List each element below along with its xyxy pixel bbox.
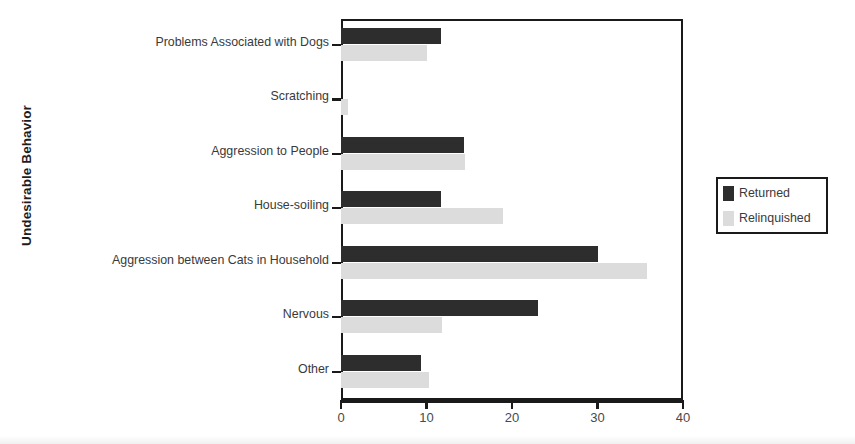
bar-relinquished-problems-associated-with-dogs (341, 45, 427, 61)
y-axis-label-wrap-house-soiling: House-soiling (0, 198, 329, 218)
bar-relinquished-nervous (341, 317, 442, 333)
bar-group-other (341, 346, 683, 400)
x-axis-tick-label-10: 10 (407, 410, 447, 425)
bar-chart-figure: Undesirable Behavior Problems Associated… (0, 0, 855, 444)
bar-returned-house-soiling (341, 191, 441, 207)
x-axis-tick-10 (425, 400, 427, 409)
y-axis-tick-scratching (332, 98, 341, 100)
y-axis-label-wrap-aggression-between-cats-in-household: Aggression between Cats in Household (0, 253, 329, 273)
x-axis-tick-20 (511, 400, 513, 409)
bar-group-problems-associated-with-dogs (341, 19, 683, 73)
bar-group-nervous (341, 291, 683, 345)
bar-relinquished-aggression-to-people (341, 154, 465, 170)
y-axis-label-aggression-to-people: Aggression to People (9, 144, 329, 158)
bar-returned-aggression-to-people (341, 137, 464, 153)
x-axis-tick-label-30: 30 (578, 410, 618, 425)
y-axis-label-wrap-other: Other (0, 362, 329, 382)
bar-relinquished-scratching (341, 99, 348, 115)
bar-relinquished-house-soiling (341, 208, 503, 224)
bar-group-aggression-between-cats-in-household (341, 237, 683, 291)
y-axis-label-nervous: Nervous (9, 307, 329, 321)
bar-returned-problems-associated-with-dogs (341, 28, 441, 44)
y-axis-label-wrap-aggression-to-people: Aggression to People (0, 144, 329, 164)
y-axis-tick-house-soiling (332, 207, 341, 209)
x-axis-tick-0 (340, 400, 342, 409)
legend-entry-returned: Returned (723, 184, 790, 202)
y-axis-label-wrap-nervous: Nervous (0, 307, 329, 327)
x-axis-tick-label-20: 20 (492, 410, 532, 425)
y-axis-tick-problems-associated-with-dogs (332, 44, 341, 46)
y-axis-label-house-soiling: House-soiling (9, 198, 329, 212)
bar-returned-other (341, 355, 421, 371)
y-axis-tick-aggression-between-cats-in-household (332, 262, 341, 264)
legend-entry-relinquished: Relinquished (723, 209, 811, 227)
scan-edge-artifact (0, 436, 855, 444)
legend-label-returned: Returned (739, 186, 790, 200)
bar-group-aggression-to-people (341, 128, 683, 182)
x-axis-tick-40 (682, 400, 684, 409)
bar-relinquished-aggression-between-cats-in-household (341, 263, 647, 279)
bar-group-house-soiling (341, 182, 683, 236)
chart-legend: ReturnedRelinquished (716, 177, 828, 234)
y-axis-tick-nervous (332, 316, 341, 318)
y-axis-label-scratching: Scratching (9, 89, 329, 103)
legend-label-relinquished: Relinquished (739, 211, 811, 225)
y-axis-label-aggression-between-cats-in-household: Aggression between Cats in Household (9, 253, 329, 267)
bar-returned-nervous (341, 300, 538, 316)
x-axis-tick-label-40: 40 (663, 410, 703, 425)
y-axis-label-wrap-scratching: Scratching (0, 89, 329, 109)
y-axis-label-wrap-problems-associated-with-dogs: Problems Associated with Dogs (0, 35, 329, 55)
bar-group-scratching (341, 73, 683, 127)
y-axis-tick-aggression-to-people (332, 153, 341, 155)
x-axis-tick-30 (596, 400, 598, 409)
bar-relinquished-other (341, 372, 429, 388)
y-axis-label-problems-associated-with-dogs: Problems Associated with Dogs (9, 35, 329, 49)
y-axis-tick-other (332, 371, 341, 373)
bar-returned-aggression-between-cats-in-household (341, 246, 598, 262)
y-axis-label-other: Other (9, 362, 329, 376)
x-axis-tick-label-0: 0 (321, 410, 361, 425)
legend-swatch-relinquished (723, 211, 734, 226)
legend-swatch-returned (723, 186, 734, 201)
